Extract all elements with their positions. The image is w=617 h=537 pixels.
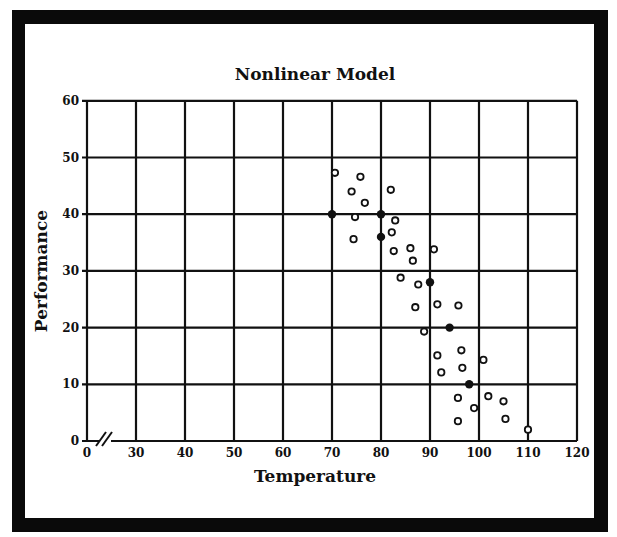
x-tick-label: 110 (515, 446, 540, 460)
chart-title: Nonlinear Model (235, 64, 396, 84)
observed-point (500, 398, 506, 404)
observed-point (455, 302, 461, 308)
observed-point (407, 245, 413, 251)
x-axis-label: Temperature (254, 466, 376, 486)
observed-point (455, 418, 461, 424)
grid-lines (82, 101, 577, 441)
observed-point (485, 393, 491, 399)
observed-point (389, 229, 395, 235)
observed-point (392, 217, 398, 223)
y-tick-labels: 0102030405060 (62, 94, 79, 448)
x-tick-label: 30 (128, 446, 145, 460)
observed-point (480, 357, 486, 363)
observed-point (502, 416, 508, 422)
model-point (465, 380, 473, 388)
x-tick-label: 90 (422, 446, 439, 460)
x-tick-label: 40 (177, 446, 194, 460)
observed-point (332, 170, 338, 176)
y-tick-label: 30 (62, 264, 79, 278)
observed-point (348, 188, 354, 194)
observed-point (350, 236, 356, 242)
axis-break-icon (96, 432, 112, 446)
observed-point (397, 275, 403, 281)
observed-point (410, 257, 416, 263)
scatter-chart: Nonlinear Model 030405060708090100110120… (0, 0, 617, 537)
x-tick-label: 80 (373, 446, 390, 460)
x-tick-label: 50 (226, 446, 243, 460)
y-tick-label: 10 (62, 377, 79, 391)
x-tick-label: 0 (83, 446, 91, 460)
observed-point (352, 214, 358, 220)
model-point (426, 278, 434, 286)
observed-point (525, 426, 531, 432)
observed-point (434, 352, 440, 358)
observed-point (412, 304, 418, 310)
y-axis-label: Performance (31, 210, 51, 332)
observed-point (357, 174, 363, 180)
observed-point (415, 281, 421, 287)
observed-point (388, 187, 394, 193)
y-tick-label: 60 (62, 94, 79, 108)
x-tick-label: 60 (275, 446, 292, 460)
y-tick-label: 50 (62, 151, 79, 165)
model-point (328, 210, 336, 218)
x-tick-label: 100 (466, 446, 491, 460)
observed-point (438, 369, 444, 375)
observed-point (434, 301, 440, 307)
observed-point (459, 365, 465, 371)
x-tick-label: 70 (324, 446, 341, 460)
x-tick-labels: 030405060708090100110120 (83, 446, 590, 460)
model-point (377, 233, 385, 241)
y-tick-label: 40 (62, 207, 79, 221)
observed-point (421, 328, 427, 334)
observed-point (362, 200, 368, 206)
model-point (377, 210, 385, 218)
observed-point (431, 246, 437, 252)
observed-point (458, 347, 464, 353)
y-tick-label: 0 (71, 434, 79, 448)
observed-point (455, 395, 461, 401)
observed-point (471, 405, 477, 411)
x-tick-label: 120 (564, 446, 589, 460)
model-points (328, 210, 474, 388)
observed-point (391, 248, 397, 254)
model-point (445, 323, 453, 331)
observed-points (332, 170, 531, 433)
y-tick-label: 20 (62, 321, 79, 335)
